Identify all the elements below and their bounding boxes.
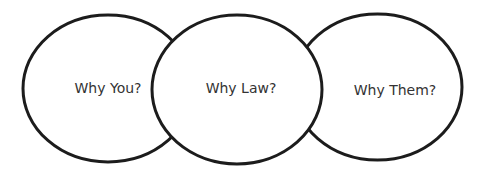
label-why-law: Why Law? (206, 80, 277, 96)
label-why-you: Why You? (74, 80, 141, 96)
label-why-them: Why Them? (354, 82, 437, 98)
venn-diagram: Why You? Why Them? Why Law? (0, 0, 486, 172)
circle-why-law: Why Law? (152, 15, 322, 164)
